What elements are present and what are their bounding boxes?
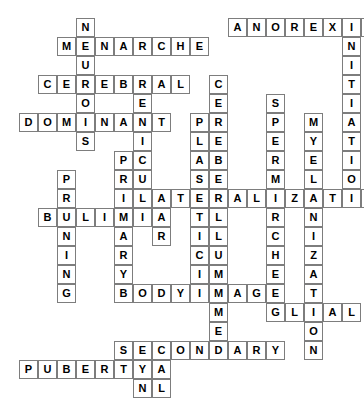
crossword-cell[interactable]: M xyxy=(209,265,228,284)
crossword-cell[interactable]: C xyxy=(152,341,171,360)
crossword-cell[interactable]: E xyxy=(266,265,285,284)
crossword-cell[interactable]: L xyxy=(285,303,304,322)
crossword-cell[interactable]: A xyxy=(228,18,247,37)
crossword-cell[interactable]: Z xyxy=(304,246,323,265)
crossword-cell[interactable]: R xyxy=(266,208,285,227)
crossword-cell[interactable]: T xyxy=(114,360,133,379)
crossword-cell[interactable]: X xyxy=(323,18,342,37)
crossword-cell[interactable]: A xyxy=(304,265,323,284)
crossword-cell[interactable]: Y xyxy=(304,132,323,151)
crossword-cell[interactable]: A xyxy=(342,113,361,132)
crossword-cell[interactable]: R xyxy=(133,37,152,56)
crossword-cell[interactable]: S xyxy=(190,170,209,189)
crossword-cell[interactable]: S xyxy=(266,94,285,113)
crossword-cell[interactable]: P xyxy=(114,151,133,170)
crossword-cell[interactable]: E xyxy=(266,284,285,303)
crossword-cell[interactable]: E xyxy=(209,94,228,113)
crossword-cell[interactable]: R xyxy=(209,189,228,208)
crossword-cell[interactable]: L xyxy=(304,170,323,189)
crossword-cell[interactable]: E xyxy=(190,189,209,208)
crossword-cell[interactable]: C xyxy=(133,151,152,170)
crossword-cell[interactable]: O xyxy=(342,170,361,189)
crossword-cell[interactable]: H xyxy=(266,246,285,265)
crossword-cell[interactable]: A xyxy=(323,303,342,322)
crossword-cell[interactable]: Y xyxy=(266,341,285,360)
crossword-cell[interactable]: A xyxy=(228,189,247,208)
crossword-cell[interactable]: T xyxy=(304,284,323,303)
crossword-cell[interactable]: N xyxy=(95,37,114,56)
crossword-cell[interactable]: U xyxy=(57,208,76,227)
crossword-cell[interactable]: I xyxy=(304,303,323,322)
crossword-cell[interactable]: T xyxy=(342,75,361,94)
crossword-cell[interactable]: I xyxy=(342,189,361,208)
crossword-cell[interactable]: N xyxy=(133,113,152,132)
crossword-cell[interactable]: M xyxy=(57,37,76,56)
crossword-cell[interactable]: A xyxy=(228,284,247,303)
crossword-cell[interactable]: U xyxy=(209,246,228,265)
crossword-cell[interactable]: B xyxy=(114,284,133,303)
crossword-cell[interactable]: N xyxy=(190,341,209,360)
crossword-cell[interactable]: O xyxy=(38,113,57,132)
crossword-cell[interactable]: A xyxy=(114,227,133,246)
crossword-cell[interactable]: D xyxy=(209,341,228,360)
crossword-cell[interactable]: R xyxy=(285,18,304,37)
crossword-cell[interactable]: P xyxy=(190,113,209,132)
crossword-cell[interactable]: B xyxy=(57,360,76,379)
crossword-cell[interactable]: O xyxy=(171,341,190,360)
crossword-grid[interactable]: NANOREXIAMENARCHENUICEREBRALCTOEESIDOMIN… xyxy=(0,0,364,398)
crossword-cell[interactable]: L xyxy=(76,208,95,227)
crossword-cell[interactable]: D xyxy=(19,113,38,132)
crossword-cell[interactable]: C xyxy=(38,75,57,94)
crossword-cell[interactable]: H xyxy=(171,37,190,56)
crossword-cell[interactable]: A xyxy=(152,189,171,208)
crossword-cell[interactable]: A xyxy=(190,151,209,170)
crossword-cell[interactable]: O xyxy=(76,94,95,113)
crossword-cell[interactable]: I xyxy=(342,151,361,170)
crossword-cell[interactable]: G xyxy=(266,303,285,322)
crossword-cell[interactable]: M xyxy=(114,208,133,227)
crossword-cell[interactable]: C xyxy=(152,37,171,56)
crossword-cell[interactable]: C xyxy=(266,227,285,246)
crossword-cell[interactable]: N xyxy=(57,227,76,246)
crossword-cell[interactable]: D xyxy=(152,284,171,303)
crossword-cell[interactable]: B xyxy=(38,208,57,227)
crossword-cell[interactable]: A xyxy=(304,189,323,208)
crossword-cell[interactable]: L xyxy=(133,189,152,208)
crossword-cell[interactable]: E xyxy=(304,151,323,170)
crossword-cell[interactable]: A xyxy=(152,75,171,94)
crossword-cell[interactable]: Y xyxy=(133,360,152,379)
crossword-cell[interactable]: P xyxy=(57,170,76,189)
crossword-cell[interactable]: M xyxy=(209,303,228,322)
crossword-cell[interactable]: P xyxy=(19,360,38,379)
crossword-cell[interactable]: B xyxy=(209,151,228,170)
crossword-cell[interactable]: Z xyxy=(285,189,304,208)
crossword-cell[interactable]: P xyxy=(266,113,285,132)
crossword-cell[interactable]: L xyxy=(209,208,228,227)
crossword-cell[interactable]: A xyxy=(152,208,171,227)
crossword-cell[interactable]: E xyxy=(190,37,209,56)
crossword-cell[interactable]: E xyxy=(209,322,228,341)
crossword-cell[interactable]: L xyxy=(247,189,266,208)
crossword-cell[interactable]: I xyxy=(133,132,152,151)
crossword-cell[interactable]: N xyxy=(342,37,361,56)
crossword-cell[interactable]: R xyxy=(209,113,228,132)
crossword-cell[interactable]: T xyxy=(171,189,190,208)
crossword-cell[interactable]: A xyxy=(152,360,171,379)
crossword-cell[interactable]: I xyxy=(133,208,152,227)
crossword-cell[interactable]: O xyxy=(304,322,323,341)
crossword-cell[interactable]: A xyxy=(228,341,247,360)
crossword-cell[interactable]: N xyxy=(247,18,266,37)
crossword-cell[interactable]: C xyxy=(190,246,209,265)
crossword-cell[interactable]: T xyxy=(190,208,209,227)
crossword-cell[interactable]: R xyxy=(95,360,114,379)
crossword-cell[interactable]: T xyxy=(323,189,342,208)
crossword-cell[interactable]: G xyxy=(57,284,76,303)
crossword-cell[interactable]: U xyxy=(38,360,57,379)
crossword-cell[interactable]: L xyxy=(171,75,190,94)
crossword-cell[interactable]: O xyxy=(133,284,152,303)
crossword-cell[interactable]: L xyxy=(152,379,171,398)
crossword-cell[interactable]: E xyxy=(76,360,95,379)
crossword-cell[interactable]: R xyxy=(76,75,95,94)
crossword-cell[interactable]: S xyxy=(76,132,95,151)
crossword-cell[interactable]: N xyxy=(304,341,323,360)
